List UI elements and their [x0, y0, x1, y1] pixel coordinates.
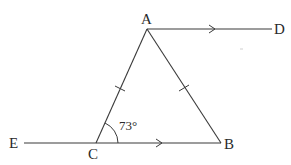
point-label-b: B	[224, 136, 234, 152]
point-label-c: C	[88, 146, 98, 162]
side-ab	[147, 29, 221, 143]
point-label-d: D	[274, 21, 285, 37]
point-label-e: E	[9, 135, 18, 151]
angle-label-c: 73°	[119, 118, 137, 133]
angle-arc-c	[105, 123, 118, 143]
geometry-diagram: 73° A D E C B	[0, 0, 291, 165]
point-label-a: A	[141, 11, 152, 27]
